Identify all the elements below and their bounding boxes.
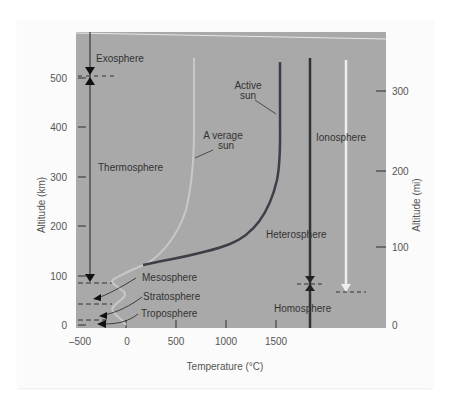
- right-tick-100: 100: [392, 242, 409, 253]
- right-axis-label: Altitude (mi): [411, 178, 422, 231]
- x-tick-neg500: –500: [69, 336, 92, 347]
- right-tick-300: 300: [392, 86, 409, 97]
- homosphere-label: Homosphere: [274, 303, 332, 314]
- x-tick-1500: 1500: [265, 336, 288, 347]
- atmosphere-diagram: 0 100 200 300 400 500 Altitude (km) 300 …: [0, 0, 457, 404]
- left-tick-300: 300: [50, 172, 67, 183]
- x-tick-1000: 1000: [215, 336, 238, 347]
- mesosphere-label: Mesosphere: [142, 272, 197, 283]
- left-tick-200: 200: [50, 221, 67, 232]
- active-sun-label-line2: sun: [240, 90, 256, 101]
- plot-area: [76, 32, 386, 328]
- left-tick-100: 100: [50, 271, 67, 282]
- x-tick-500: 500: [168, 336, 185, 347]
- right-tick-200: 200: [392, 166, 409, 177]
- ionosphere-label: Ionosphere: [316, 132, 366, 143]
- left-axis-label: Altitude (km): [36, 177, 47, 233]
- exosphere-label: Exosphere: [96, 53, 144, 64]
- stratosphere-label: Stratosphere: [143, 291, 201, 302]
- heterosphere-label: Heterosphere: [266, 229, 327, 240]
- left-tick-500: 500: [50, 73, 67, 84]
- right-tick-0: 0: [392, 320, 398, 331]
- thermosphere-label: Thermosphere: [98, 162, 163, 173]
- x-tick-0: 0: [124, 336, 130, 347]
- x-axis-label: Temperature (°C): [187, 361, 264, 372]
- left-tick-400: 400: [50, 122, 67, 133]
- troposphere-label: Troposphere: [141, 308, 198, 319]
- left-tick-0: 0: [61, 320, 67, 331]
- average-sun-label-line2: sun: [218, 140, 234, 151]
